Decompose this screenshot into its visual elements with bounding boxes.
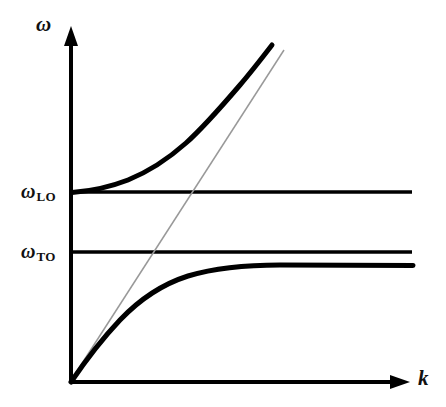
y-axis [64, 26, 78, 382]
omega-lo-subscript: LO [36, 189, 55, 204]
dispersion-plot [0, 0, 446, 407]
x-axis-label: k [418, 368, 429, 389]
omega-lo-symbol: ω [21, 180, 35, 202]
lower-polariton-branch [71, 265, 413, 382]
tick-label-omega-lo: ωLO [21, 181, 55, 201]
light-line [70, 50, 284, 382]
tick-label-omega-to: ωTO [21, 241, 55, 261]
y-axis-label: ω [36, 14, 51, 35]
polariton-dispersion-figure: ω k ωLO ωTO [0, 0, 446, 407]
omega-to-subscript: TO [36, 249, 55, 264]
omega-to-symbol: ω [21, 240, 35, 262]
x-axis [71, 375, 410, 389]
upper-polariton-branch [72, 45, 272, 193]
